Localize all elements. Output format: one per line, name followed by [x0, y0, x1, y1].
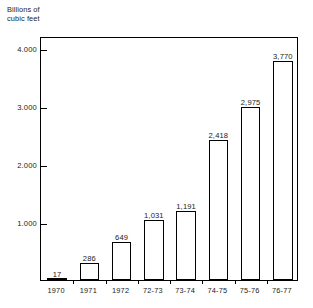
y-axis-tick-label: 3.000 [3, 102, 37, 111]
x-axis-tick-mark [170, 280, 171, 284]
bar [80, 263, 99, 280]
bar-value-label: 1,191 [176, 202, 196, 211]
bar-value-label: 1,031 [144, 211, 164, 220]
bar [273, 61, 292, 280]
x-axis-tick-labels: 19701971197272-7373-7474-7575-7676-77 [0, 286, 313, 300]
x-axis-tick-mark [138, 280, 139, 284]
bar-value-label: 286 [83, 254, 96, 263]
y-axis-tick-label: 4.000 [3, 44, 37, 53]
y-axis-tick-labels: 1.0002.0003.0004.000 [0, 0, 37, 308]
bar-value-label: 2,975 [241, 98, 261, 107]
y-axis-tick-mark [41, 50, 47, 51]
x-axis-tick-mark [106, 280, 107, 284]
bar [209, 140, 228, 280]
x-axis-tick-label: 72-73 [143, 286, 163, 295]
bar-value-label: 2,418 [208, 131, 228, 140]
y-axis-tick-mark [41, 166, 47, 167]
y-axis-tick-label: 2.000 [3, 160, 37, 169]
bar [241, 107, 260, 280]
x-axis-tick-mark [202, 280, 203, 284]
x-axis-tick-label: 1972 [112, 286, 129, 295]
x-axis-tick-mark [73, 280, 74, 284]
x-axis-tick-label: 1970 [48, 286, 65, 295]
bar [176, 211, 195, 280]
x-axis-tick-mark [235, 280, 236, 284]
plot-area: 172866491,0311,1912,4182,9753,770 [40, 37, 298, 281]
bar [112, 242, 131, 280]
x-axis-tick-label: 76-77 [272, 286, 292, 295]
x-axis-tick-label: 1971 [80, 286, 97, 295]
bar-chart: Billions of cubic feet 1.0002.0003.0004.… [0, 0, 313, 308]
bar [144, 220, 163, 280]
x-axis-tick-label: 75-76 [240, 286, 260, 295]
bar-value-label: 3,770 [273, 52, 293, 61]
bar-value-label: 649 [115, 233, 128, 242]
y-axis-tick-label: 1.000 [3, 218, 37, 227]
x-axis-tick-label: 73-74 [175, 286, 195, 295]
y-axis-tick-mark [41, 224, 47, 225]
x-axis-tick-mark [267, 280, 268, 284]
x-axis-tick-label: 74-75 [208, 286, 228, 295]
y-axis-tick-mark [41, 108, 47, 109]
bar-value-label: 17 [53, 270, 62, 279]
